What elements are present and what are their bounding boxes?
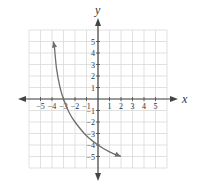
curve-start-arrow-icon (52, 42, 57, 48)
curve-end-arrow-icon (114, 152, 121, 157)
y-tick-label: 5 (91, 38, 95, 47)
y-tick-label: 3 (91, 61, 95, 70)
y-axis-label: y (94, 3, 101, 17)
x-tick-label: 1 (108, 102, 112, 111)
x-tick-label: 3 (131, 102, 135, 111)
x-tick-label: −4 (48, 102, 57, 111)
x-axis-right-arrow-icon (170, 96, 178, 102)
x-tick-label: 4 (142, 102, 146, 111)
x-tick-label: −5 (36, 102, 45, 111)
y-tick-label: 2 (91, 72, 95, 81)
x-tick-label: 5 (154, 102, 158, 111)
x-tick-label: −2 (71, 102, 80, 111)
y-axis-down-arrow-icon (95, 173, 101, 181)
y-tick-label: −1 (86, 107, 95, 116)
x-tick-label: 2 (119, 102, 123, 111)
graph: −5−4−3−2−11234554321−1−2−3−4−5 x y (0, 0, 197, 187)
y-tick-label: 4 (91, 49, 95, 58)
x-axis-label: x (181, 92, 188, 106)
y-tick-label: −5 (86, 153, 95, 162)
y-axis-up-arrow-icon (95, 18, 101, 26)
x-axis-left-arrow-icon (18, 96, 26, 102)
y-tick-label: −2 (86, 118, 95, 127)
y-tick-label: 1 (91, 84, 95, 93)
